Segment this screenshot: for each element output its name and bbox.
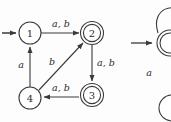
edge-label-4-to-1: a xyxy=(18,59,24,70)
state-1-label: 1 xyxy=(27,28,33,39)
state-partial-bottom-outline xyxy=(159,95,171,121)
state-partial-bottom[interactable] xyxy=(159,95,171,121)
self-loop-arc-partial xyxy=(156,8,171,33)
state-4-label: 4 xyxy=(27,93,33,104)
automata-svg: 1 2 3 4 a, b a, b a, b a b xyxy=(0,0,171,122)
state-2-label: 2 xyxy=(89,28,95,39)
state-2[interactable]: 2 xyxy=(81,22,104,45)
edge-label-2-to-3: a, b xyxy=(97,57,115,68)
edge-label-partial-a: a xyxy=(146,67,152,78)
state-partial-top-outer-ring xyxy=(157,30,171,56)
edge-label-3-to-4: a, b xyxy=(52,82,70,93)
edge-label-1-to-2: a, b xyxy=(52,18,70,29)
state-4[interactable]: 4 xyxy=(19,87,41,109)
state-3-label: 3 xyxy=(89,90,95,101)
state-3[interactable]: 3 xyxy=(81,84,104,107)
state-partial-top[interactable] xyxy=(157,30,171,56)
automata-figure: 1 2 3 4 a, b a, b a, b a b xyxy=(0,0,171,122)
state-1[interactable]: 1 xyxy=(19,22,41,44)
edge-label-4-to-2: b xyxy=(49,56,55,67)
